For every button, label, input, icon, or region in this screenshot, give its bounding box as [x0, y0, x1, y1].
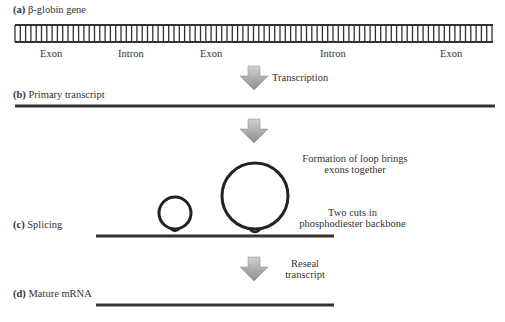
down-arrow-reseal [240, 257, 268, 281]
panel-d-label: (d) Mature mRNA [13, 288, 92, 299]
loop-note: Formation of loop bringsexons together [295, 153, 415, 175]
segment-exon-2: Exon [200, 48, 222, 59]
cuts-note: Two cuts inphosphodiester backbone [290, 207, 415, 229]
panel-a-label: (a) β-globin gene [13, 4, 86, 15]
down-arrow-splicing [240, 119, 268, 143]
segment-intron-2: Intron [320, 48, 346, 59]
panel-b-label: (b) Primary transcript [13, 89, 105, 100]
large-intron-loop [222, 163, 288, 229]
down-arrow-transcription [240, 66, 268, 90]
small-intron-loop [159, 197, 191, 229]
reseal-note: Resealtranscript [280, 258, 330, 280]
panel-c-label: (c) Splicing [13, 219, 62, 230]
gene-ladder [15, 25, 493, 42]
transcription-label: Transcription [272, 72, 328, 83]
segment-exon-1: Exon [40, 48, 62, 59]
diagram-graphics [0, 0, 505, 322]
segment-exon-3: Exon [440, 48, 462, 59]
segment-intron-1: Intron [118, 48, 144, 59]
